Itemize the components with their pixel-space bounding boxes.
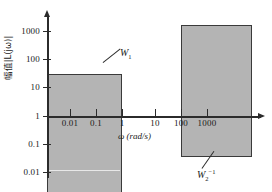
annotation-w1-sub: 1 (128, 53, 131, 60)
x-tick-0.01 (70, 109, 71, 116)
y-tick-1 (43, 116, 51, 117)
annotation-w2-sub: 2 (205, 175, 208, 182)
annotation-w2-sup: −1 (209, 168, 216, 175)
y-tick-label-1: 1 (0, 111, 40, 121)
region-w2-inverse (181, 25, 252, 157)
x-axis-title: ω (rad/s) (118, 131, 151, 141)
y-tick-1000 (43, 31, 51, 32)
y-tick-0.1 (43, 144, 51, 145)
x-tick-label-0.1: 0.1 (83, 118, 109, 128)
x-tick-label-1000: 1000 (193, 118, 221, 128)
x-tick-1000 (207, 109, 208, 116)
x-tick-1 (122, 109, 123, 116)
annotation-w2-inverse: W2−1 (197, 168, 216, 182)
y-axis-arrowhead (44, 10, 50, 17)
x-tick-label-100: 100 (168, 118, 194, 128)
x-tick-0.1 (96, 109, 97, 116)
y-tick-10 (43, 87, 51, 88)
annotation-w1-leader-line (103, 49, 121, 63)
y-axis-title: 幅值|L(jω)| (1, 23, 13, 93)
magnitude-bound-chart: 1000 100 10 1 0.1 0.01 0.01 0.1 1 10 100… (0, 0, 272, 192)
x-axis-arrowhead (258, 113, 265, 119)
region-w1-stripe (49, 170, 120, 171)
y-axis-line (47, 15, 49, 178)
x-tick-label-1: 1 (110, 118, 134, 128)
x-tick-label-10: 10 (143, 118, 167, 128)
y-tick-label-0.1: 0.1 (0, 139, 40, 149)
annotation-w1: W1 (120, 47, 132, 60)
x-tick-10 (155, 109, 156, 116)
x-tick-100 (181, 109, 182, 116)
region-w1 (47, 74, 122, 192)
y-tick-0.01 (43, 172, 51, 173)
y-tick-100 (43, 59, 51, 60)
x-tick-label-0.01: 0.01 (56, 118, 84, 128)
y-tick-label-0.01: 0.01 (0, 167, 40, 177)
